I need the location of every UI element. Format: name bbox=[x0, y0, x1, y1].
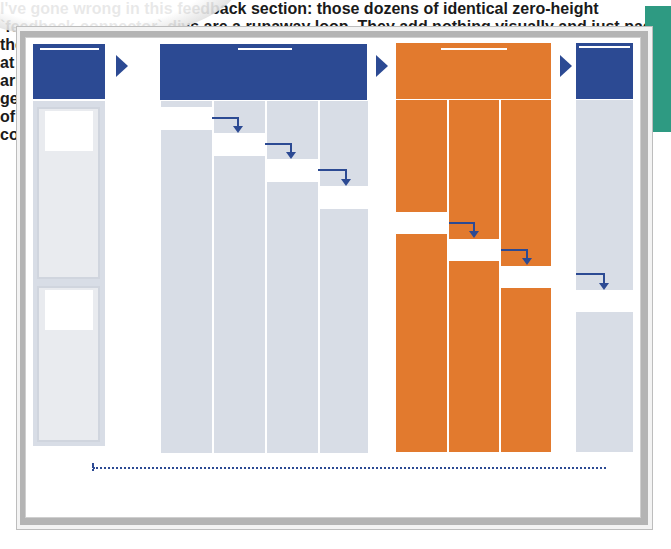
implementation-column-budgets bbox=[449, 100, 499, 452]
stage-header-evaluation-control bbox=[576, 43, 633, 99]
chevron-right-icon bbox=[560, 55, 572, 77]
internal-environment-box bbox=[37, 286, 100, 442]
formulation-column-policies bbox=[320, 101, 368, 453]
stage-title-strategy-implementation bbox=[441, 48, 507, 50]
arrow-down-icon bbox=[341, 179, 351, 186]
step-strategies bbox=[267, 159, 318, 182]
formulation-column-mission bbox=[161, 101, 212, 453]
arrow-down-icon bbox=[233, 126, 243, 133]
step-budgets bbox=[449, 239, 499, 261]
implementation-column-programs bbox=[396, 100, 447, 452]
arrow-down-icon bbox=[469, 231, 479, 238]
step-objectives bbox=[214, 133, 265, 156]
feedback-loop-line bbox=[93, 467, 606, 469]
stage-header-strategy-formulation bbox=[160, 44, 367, 100]
step-programs bbox=[396, 212, 447, 234]
chevron-right-icon bbox=[376, 55, 388, 77]
step-mission bbox=[161, 107, 212, 130]
stage-header-strategy-implementation bbox=[396, 43, 551, 99]
step-policies bbox=[320, 186, 368, 209]
stage-title-evaluation-control bbox=[579, 46, 630, 48]
stage-title-strategy-formulation bbox=[238, 48, 292, 50]
stage-header-environmental-scanning bbox=[33, 44, 105, 99]
external-environment-box bbox=[37, 107, 100, 279]
chevron-right-icon bbox=[116, 55, 128, 77]
external-header bbox=[45, 111, 93, 151]
step-performance bbox=[576, 290, 633, 312]
arrow-down-icon bbox=[522, 258, 532, 265]
arrow-down-icon bbox=[599, 283, 609, 290]
feedback-connector bbox=[92, 466, 94, 468]
stage-title-environmental-scanning bbox=[40, 48, 99, 50]
internal-header bbox=[45, 290, 93, 330]
step-procedures bbox=[501, 266, 556, 288]
arrow-down-icon bbox=[286, 152, 296, 159]
